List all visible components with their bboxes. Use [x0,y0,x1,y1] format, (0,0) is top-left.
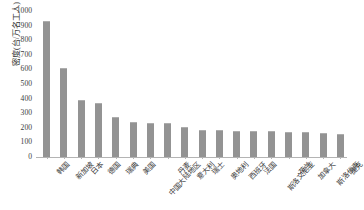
x-tick-label: 德国 [107,161,122,176]
x-tick-mark [323,157,324,159]
x-tick-mark [254,157,255,159]
x-tick-mark [340,157,341,159]
x-tick-label: 奥地利 [230,161,250,181]
x-tick-label: 加拿大 [316,161,336,181]
x-tick-mark [133,157,134,159]
x-tick-label: 瑞典 [124,161,139,176]
x-tick-label: 美国 [141,161,156,176]
x-tick-mark [168,157,169,159]
x-tick-mark [47,157,48,159]
x-tick-mark [98,157,99,159]
x-tick-mark [64,157,65,159]
x-tick-label: 韩国 [55,161,70,176]
x-tick-mark [237,157,238,159]
x-tick-mark [150,157,151,159]
x-tick-mark [306,157,307,159]
x-tick-mark [271,157,272,159]
x-tick-mark [185,157,186,159]
x-tick-mark [202,157,203,159]
x-tick-mark [116,157,117,159]
x-tick-mark [289,157,290,159]
x-tick-mark [81,157,82,159]
x-tick-mark [219,157,220,159]
